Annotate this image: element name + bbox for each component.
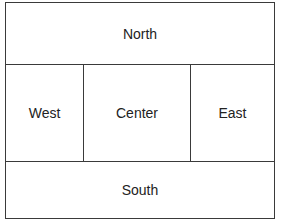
- region-south-label: South: [122, 182, 159, 198]
- region-center: Center: [84, 65, 191, 161]
- region-west-label: West: [29, 105, 61, 121]
- region-west: West: [6, 65, 84, 161]
- region-north: North: [6, 3, 274, 65]
- region-south: South: [6, 161, 274, 218]
- region-center-label: Center: [116, 105, 158, 121]
- border-layout-frame: North West Center East South: [5, 2, 275, 219]
- region-east: East: [191, 65, 274, 161]
- region-north-label: North: [123, 26, 157, 42]
- region-east-label: East: [218, 105, 246, 121]
